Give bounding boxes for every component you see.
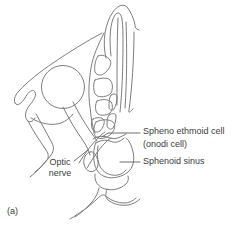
skull-base-stem-left: [75, 188, 99, 217]
optic-nerve-sheath-left: [63, 107, 90, 155]
label-sphenoid-sinus: Sphenoid sinus: [143, 156, 205, 167]
optic-nerve-sheath-right: [73, 102, 97, 141]
label-optic-nerve-line1: Optic: [45, 157, 75, 168]
ethmoid-cell: [109, 94, 117, 110]
ethmoid-cells: [91, 55, 117, 132]
panel-label: (a): [7, 206, 18, 217]
label-spheno-ethmoid-cell-line1: Spheno ethmoid cell: [143, 126, 225, 137]
label-optic-nerve-line2: nerve: [45, 168, 75, 179]
anatomy-diagram: [0, 0, 241, 233]
sphenoid-inner-wall: [97, 146, 126, 175]
ethmoid-cell: [94, 78, 113, 97]
ethmoid-cell: [96, 100, 113, 116]
ethmoid-cell: [95, 55, 111, 75]
orbit-outline: [14, 33, 104, 177]
sphenoid-outer-wall: [94, 138, 134, 178]
label-spheno-ethmoid-cell-line2: (onodi cell): [143, 139, 187, 150]
orbit-lacrimal-hook: [15, 90, 36, 121]
eye-globe: [42, 66, 85, 109]
turbinate-inner-line: [125, 22, 127, 108]
skull-base-under-curve: [70, 195, 136, 219]
sphenoid-floor-fold: [95, 174, 129, 190]
skull-base-lines: [70, 188, 140, 219]
turbinate-inner-line: [117, 18, 118, 105]
anatomy-figure: Spheno ethmoid cell (onodi cell) Sphenoi…: [0, 0, 241, 233]
turbinate-right-edge: [129, 32, 134, 112]
